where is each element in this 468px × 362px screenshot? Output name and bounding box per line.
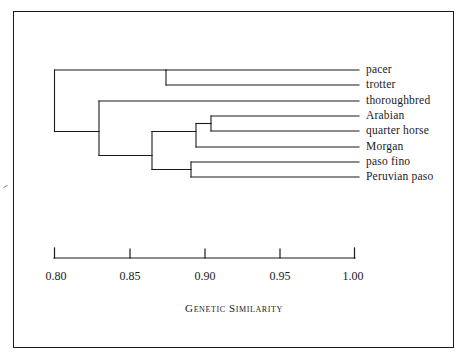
similarity-axis bbox=[54, 248, 355, 258]
axis-tick-label-4: 1.00 bbox=[343, 270, 364, 282]
leaf-label-thoroughbred: thoroughbred bbox=[366, 95, 430, 107]
leaf-label-trotter: trotter bbox=[366, 79, 396, 91]
axis-tick-label-2: 0.90 bbox=[195, 270, 216, 282]
axis-tick-label-1: 0.85 bbox=[120, 270, 141, 282]
leaf-label-paso-fino: paso fino bbox=[366, 156, 410, 168]
axis-tick-label-0: 0.80 bbox=[46, 270, 67, 282]
axis-tick-label-3: 0.95 bbox=[270, 270, 291, 282]
dendrogram-figure: pacer trotter thoroughbred Arabian quart… bbox=[0, 0, 468, 362]
leaf-label-arabian: Arabian bbox=[366, 110, 404, 122]
tree-branches bbox=[55, 70, 360, 177]
leaf-label-morgan: Morgan bbox=[366, 141, 403, 153]
axis-title-genetic-similarity: Genetic Similarity bbox=[185, 302, 283, 314]
leaf-label-quarter-horse: quarter horse bbox=[366, 125, 429, 137]
leaf-label-pacer: pacer bbox=[366, 64, 392, 76]
leaf-label-peruvian-paso: Peruvian paso bbox=[366, 171, 433, 183]
